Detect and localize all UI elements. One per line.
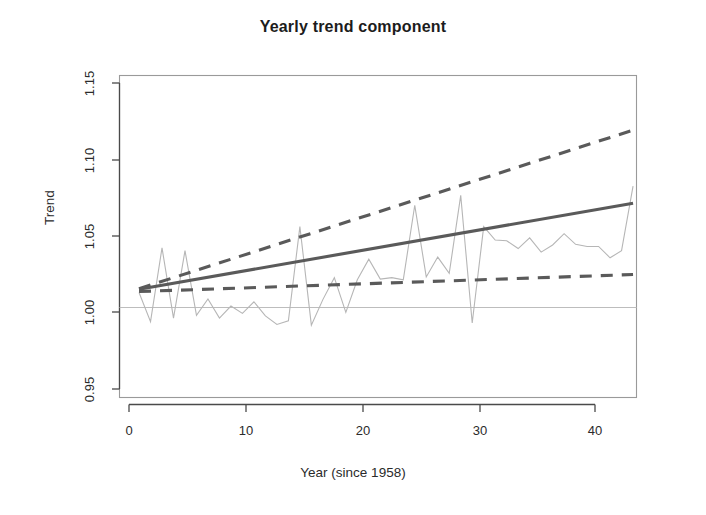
x-tick-label-0: 0	[109, 423, 149, 438]
x-tick-label-3: 30	[460, 423, 500, 438]
x-tickmarks	[129, 405, 595, 413]
x-tick-label-2: 20	[343, 423, 383, 438]
chart-figure: Yearly trend component Trend Year (since…	[0, 0, 706, 515]
x-tick-label-1: 10	[226, 423, 266, 438]
upper-confidence-line	[139, 130, 633, 289]
plot-frame	[120, 76, 637, 398]
y-tickmarks	[112, 83, 120, 389]
y-tick-label-0: 0.95	[82, 367, 97, 413]
y-axis-label: Trend	[42, 173, 57, 243]
y-tick-label-3: 1.10	[82, 138, 97, 184]
y-tick-label-1: 1.00	[82, 290, 97, 336]
observed-series-line	[139, 186, 633, 325]
x-tick-label-4: 40	[575, 423, 615, 438]
chart-title: Yearly trend component	[0, 18, 706, 36]
y-tick-label-4: 1.15	[82, 61, 97, 107]
y-tick-label-2: 1.05	[82, 214, 97, 260]
x-axis-label: Year (since 1958)	[0, 465, 706, 480]
